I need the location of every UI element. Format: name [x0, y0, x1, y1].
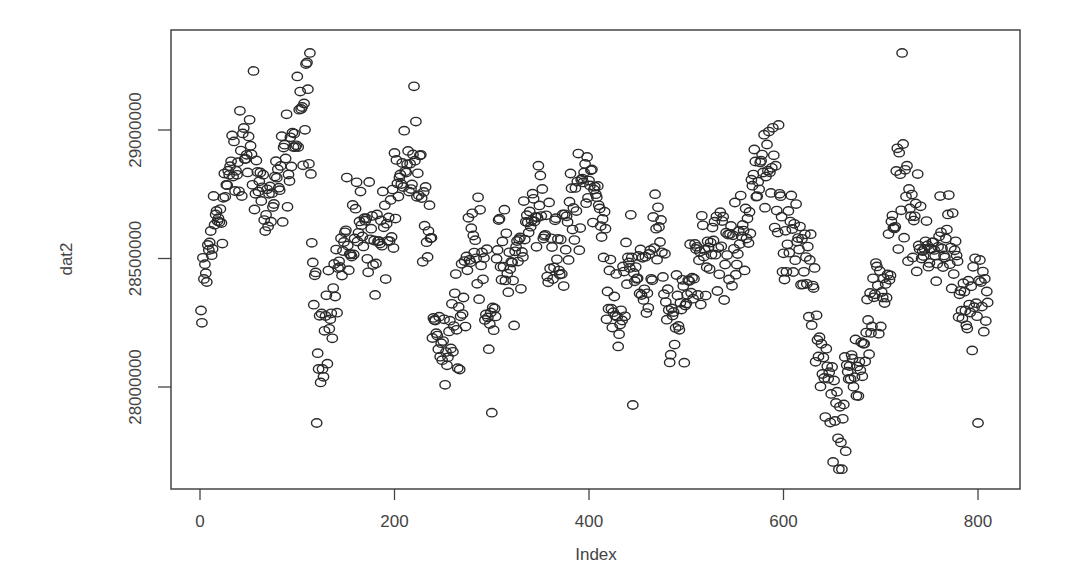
data-point: [701, 291, 711, 299]
x-tick-label: 200: [380, 512, 408, 531]
data-point: [602, 287, 612, 295]
data-point: [197, 319, 207, 327]
data-point: [208, 192, 218, 200]
data-point: [312, 419, 322, 427]
data-point: [779, 275, 789, 283]
data-point: [840, 353, 850, 361]
y-axis: 280000002850000029000000: [126, 92, 171, 425]
data-point: [355, 187, 365, 195]
data-point: [788, 268, 798, 276]
y-tick-label: 28000000: [126, 349, 145, 425]
data-point: [371, 259, 381, 267]
data-point: [243, 168, 253, 176]
x-tick-label: 400: [575, 512, 603, 531]
data-point: [782, 240, 792, 248]
data-point: [552, 255, 562, 263]
data-point: [306, 170, 316, 178]
data-point: [769, 151, 779, 159]
data-point: [567, 225, 577, 233]
data-point: [626, 211, 636, 219]
data-point: [605, 255, 615, 263]
data-point: [714, 270, 724, 278]
data-point: [390, 214, 400, 222]
data-point: [531, 243, 541, 251]
data-point: [790, 256, 800, 264]
data-point: [497, 237, 507, 245]
data-point: [561, 246, 571, 254]
data-point: [358, 242, 368, 250]
data-point: [535, 171, 545, 179]
data-point: [292, 72, 302, 80]
data-point: [783, 207, 793, 215]
data-point: [893, 245, 903, 253]
data-point: [304, 160, 314, 168]
y-axis-title: dat2: [57, 242, 76, 275]
plot-frame: [171, 30, 1020, 489]
data-point: [280, 154, 290, 162]
data-point: [879, 299, 889, 307]
data-point: [563, 256, 573, 264]
data-point: [912, 267, 922, 275]
data-point: [950, 237, 960, 245]
data-point: [931, 277, 941, 285]
data-point: [499, 206, 509, 214]
data-point: [519, 197, 529, 205]
data-point: [344, 266, 354, 274]
data-point: [475, 206, 485, 214]
data-point: [370, 291, 380, 299]
data-points: [196, 49, 993, 474]
data-point: [857, 372, 867, 380]
data-point: [807, 321, 817, 329]
data-point: [411, 117, 421, 125]
data-point: [613, 342, 623, 350]
data-point: [773, 228, 783, 236]
data-point: [981, 317, 991, 325]
data-point: [609, 292, 619, 300]
data-point: [663, 285, 673, 293]
data-point: [440, 381, 450, 389]
data-point: [736, 191, 746, 199]
data-point: [780, 227, 790, 235]
data-point: [559, 282, 569, 290]
data-point: [809, 264, 819, 272]
data-point: [803, 242, 813, 250]
data-point: [596, 233, 606, 241]
data-point: [337, 271, 347, 279]
data-point: [719, 296, 729, 304]
data-point: [655, 238, 665, 246]
data-point: [457, 310, 467, 318]
data-point: [913, 170, 923, 178]
data-point: [351, 178, 361, 186]
data-point: [658, 273, 668, 281]
data-point: [829, 376, 839, 384]
data-point: [245, 142, 255, 150]
data-point: [248, 67, 258, 75]
data-point: [614, 330, 624, 338]
data-point: [239, 124, 249, 132]
data-point: [815, 382, 825, 390]
data-point: [786, 191, 796, 199]
data-point: [897, 49, 907, 57]
data-point: [904, 185, 914, 193]
data-point: [227, 131, 237, 139]
data-point: [229, 137, 239, 145]
data-point: [278, 218, 288, 226]
data-point: [479, 254, 489, 262]
data-point: [907, 190, 917, 198]
data-point: [864, 350, 874, 358]
data-point: [282, 203, 292, 211]
data-point: [508, 276, 518, 284]
data-point: [308, 258, 318, 266]
data-point: [380, 201, 390, 209]
y-tick-label: 29000000: [126, 92, 145, 168]
data-point: [235, 107, 245, 115]
data-point: [716, 242, 726, 250]
data-point: [217, 239, 227, 247]
data-point: [509, 321, 519, 329]
data-point: [534, 201, 544, 209]
data-point: [660, 250, 670, 258]
data-point: [949, 270, 959, 278]
x-tick-label: 0: [195, 512, 204, 531]
data-point: [438, 337, 448, 345]
data-point: [381, 275, 391, 283]
